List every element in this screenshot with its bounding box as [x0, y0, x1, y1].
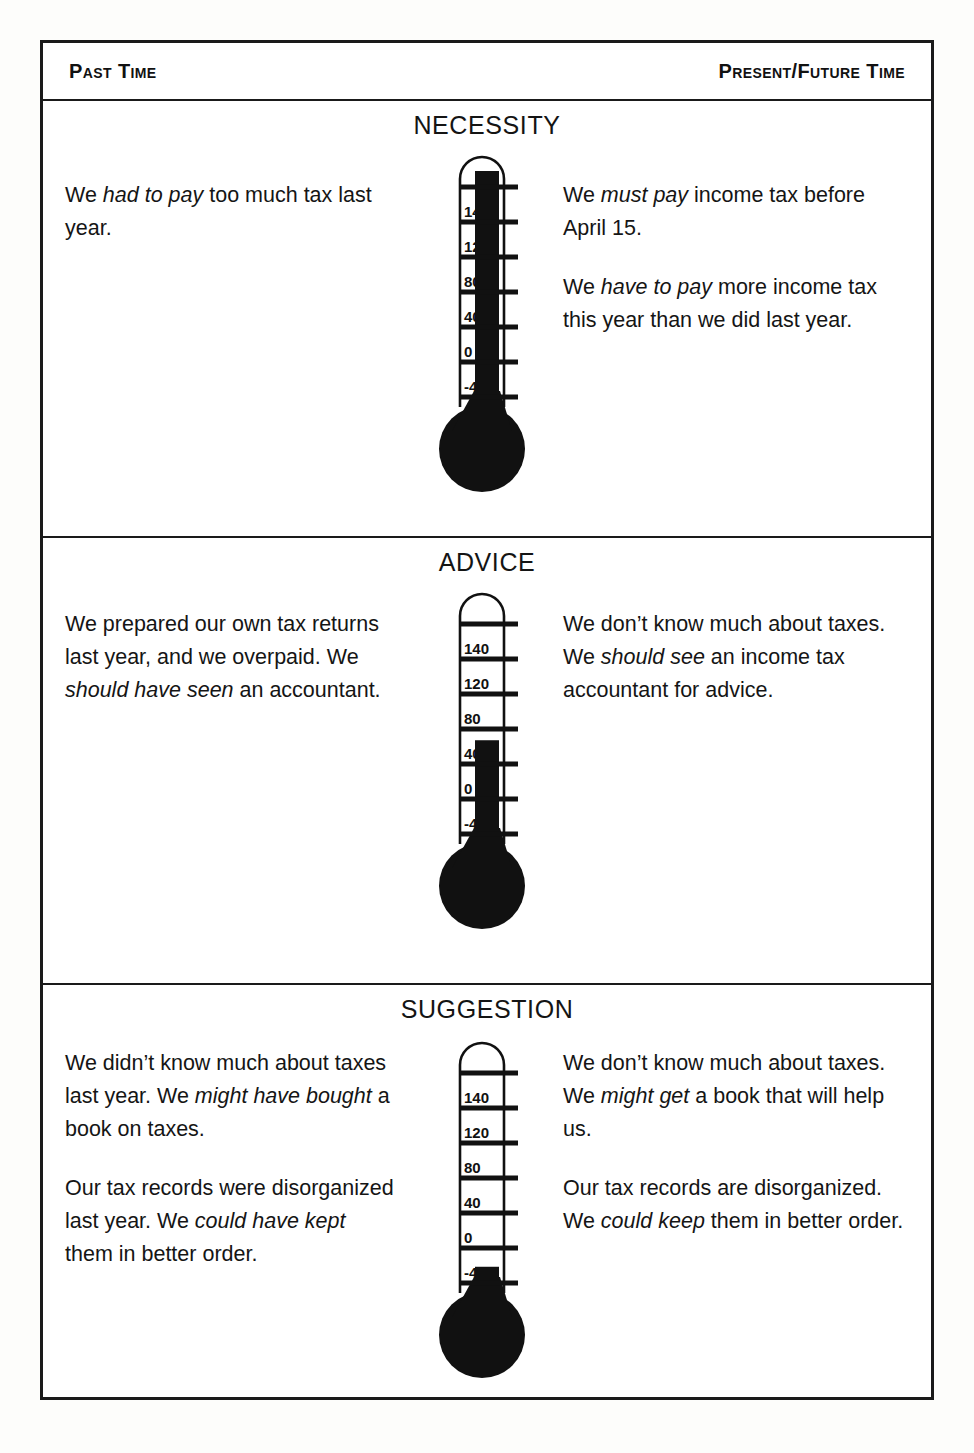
- scale-label: -40: [464, 1264, 486, 1281]
- modal-phrase: should see: [601, 645, 705, 669]
- scale-label: 120: [464, 1124, 489, 1141]
- modal-phrase: must pay: [601, 183, 688, 207]
- scale-label: 40: [464, 308, 481, 325]
- scale-label: 120: [464, 675, 489, 692]
- diagram-frame: Past Time Present/Future Time NECESSITY …: [40, 40, 934, 1400]
- section-necessity: NECESSITY 14012080400-40 We had to pay t…: [43, 101, 931, 538]
- scale-label: 80: [464, 1159, 481, 1176]
- scale-label: 120: [464, 238, 489, 255]
- text-run: We: [563, 275, 601, 299]
- modal-phrase: should have seen: [65, 678, 234, 702]
- scale-label: 80: [464, 710, 481, 727]
- paragraph: Our tax records are disorganized. We cou…: [563, 1172, 908, 1238]
- modal-phrase: have to pay: [601, 275, 712, 299]
- section-title: NECESSITY: [43, 111, 931, 140]
- scale-label: 40: [464, 1194, 481, 1211]
- scale-label: -40: [464, 815, 486, 832]
- diagram-page: Past Time Present/Future Time NECESSITY …: [0, 0, 974, 1453]
- modal-phrase: had to pay: [103, 183, 203, 207]
- section-title: ADVICE: [43, 548, 931, 577]
- column-past-time: We didn’t know much about taxes last yea…: [65, 1047, 395, 1271]
- scale-label: 0: [464, 343, 472, 360]
- scale-label: 80: [464, 273, 481, 290]
- paragraph: We have to pay more income tax this year…: [563, 271, 908, 337]
- scale-label: 140: [464, 203, 489, 220]
- text-run: We: [563, 183, 601, 207]
- scale-label: 0: [464, 1229, 472, 1246]
- column-past-time: We prepared our own tax returns last yea…: [65, 608, 395, 707]
- modal-phrase: could have kept: [195, 1209, 346, 1233]
- section-title: SUGGESTION: [43, 995, 931, 1024]
- text-run: them in better order.: [705, 1209, 903, 1233]
- paragraph: We don’t know much about taxes. We shoul…: [563, 608, 908, 707]
- paragraph: We prepared our own tax returns last yea…: [65, 608, 395, 707]
- paragraph: We must pay income tax before April 15.: [563, 179, 908, 245]
- scale-label: 140: [464, 640, 489, 657]
- text-run: an accountant.: [234, 678, 381, 702]
- text-run: them in better order.: [65, 1242, 257, 1266]
- header-row: Past Time Present/Future Time: [43, 43, 931, 101]
- thermometer-suggestion: 14012080400-40: [427, 1035, 547, 1380]
- paragraph: We had to pay too much tax last year.: [65, 179, 395, 245]
- header-label-past-time: Past Time: [69, 60, 157, 83]
- section-advice: ADVICE 14012080400-40 We prepared our ow…: [43, 538, 931, 985]
- column-past-time: We had to pay too much tax last year.: [65, 179, 395, 245]
- scale-label: 40: [464, 745, 481, 762]
- column-present-future-time: We must pay income tax before April 15.W…: [563, 179, 908, 337]
- section-suggestion: SUGGESTION 14012080400-40 We didn’t know…: [43, 985, 931, 1399]
- thermometer-advice: 14012080400-40: [427, 586, 547, 931]
- text-run: We prepared our own tax returns last yea…: [65, 612, 379, 669]
- paragraph: We don’t know much about taxes. We might…: [563, 1047, 908, 1146]
- text-run: We: [65, 183, 103, 207]
- scale-label: 140: [464, 1089, 489, 1106]
- modal-phrase: could keep: [601, 1209, 705, 1233]
- thermometer-necessity: 14012080400-40: [427, 149, 547, 494]
- header-label-present-future-time: Present/Future Time: [719, 60, 905, 83]
- scale-label: 0: [464, 780, 472, 797]
- column-present-future-time: We don’t know much about taxes. We might…: [563, 1047, 908, 1238]
- modal-phrase: might get: [601, 1084, 689, 1108]
- paragraph: Our tax records were disorganized last y…: [65, 1172, 395, 1271]
- column-present-future-time: We don’t know much about taxes. We shoul…: [563, 608, 908, 707]
- modal-phrase: might have bought: [195, 1084, 372, 1108]
- paragraph: We didn’t know much about taxes last yea…: [65, 1047, 395, 1146]
- scale-label: -40: [464, 378, 486, 395]
